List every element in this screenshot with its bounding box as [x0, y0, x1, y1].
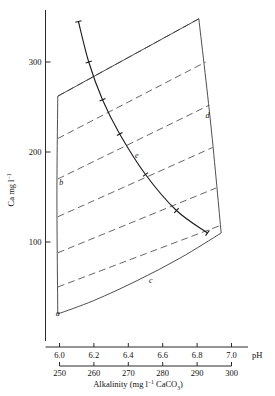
isoline-dashed — [58, 188, 216, 253]
curve-label-a: a — [56, 309, 60, 318]
envelope-curve-c — [58, 233, 221, 314]
x-tick-label-ph: 6.6 — [157, 350, 168, 360]
chart-figure: 100200300 6.06.26.46.66.87.0 25026027028… — [0, 0, 275, 396]
x-tick-label-alkalinity: 300 — [225, 368, 238, 378]
x-tick-label-alkalinity: 270 — [122, 368, 135, 378]
envelope-curve-b — [57, 96, 58, 314]
x-tick-label-ph: 6.2 — [89, 350, 100, 360]
curve-label-c: c — [149, 276, 153, 285]
x-tick-label-alkalinity: 290 — [191, 368, 204, 378]
y-axis-title: Ca mg l−1 — [6, 173, 16, 206]
curve-label-b: b — [59, 178, 63, 187]
y-tick-label: 200 — [29, 147, 42, 157]
x-axis-ph-title: pH — [252, 350, 262, 360]
alkalinity-title-pre: Alkalinity (mg l — [93, 379, 148, 389]
x-tick-label-alkalinity: 280 — [156, 368, 169, 378]
x-tick-label-ph: 6.0 — [54, 350, 65, 360]
curve-e-path — [78, 22, 207, 234]
envelope-group — [57, 19, 221, 314]
ca-ph-alkalinity-nomogram: 100200300 6.06.26.46.66.87.0 25026027028… — [0, 0, 275, 396]
envelope-curve-top — [58, 19, 199, 96]
curve-e-group — [75, 21, 209, 236]
curve-e-tick-marker — [143, 173, 148, 177]
y-axis-title-text: Ca mg l — [6, 179, 16, 207]
isoline-dashed — [58, 62, 206, 139]
curve-e-tick-marker — [75, 21, 81, 23]
x-tick-ph-group: 6.06.26.46.66.87.0 — [54, 343, 237, 360]
x-tick-label-ph: 6.8 — [192, 350, 203, 360]
alkalinity-title-mid: CaCO — [154, 379, 177, 389]
envelope-curve-d — [199, 19, 221, 233]
isoline-dashed — [58, 226, 220, 287]
x-tick-label-ph: 6.4 — [123, 350, 134, 360]
x-axis-alkalinity-title: Alkalinity (mg l−1 CaCO3) — [93, 379, 183, 391]
axis-group — [46, 10, 249, 366]
svg-text:Ca mg l−1: Ca mg l−1 — [6, 173, 16, 206]
curve-e-tick-marker — [117, 132, 123, 135]
x-tick-label-alkalinity: 250 — [53, 368, 66, 378]
y-axis-title-superscript: −1 — [6, 173, 12, 179]
alkalinity-title-post: ) — [180, 379, 183, 389]
isoline-dashed — [58, 105, 209, 179]
y-tick-label: 300 — [29, 57, 42, 67]
y-tick-group: 100200300 — [29, 57, 51, 247]
x-tick-label-alkalinity: 260 — [88, 368, 101, 378]
y-tick-label: 100 — [29, 237, 42, 247]
x-tick-label-ph: 7.0 — [226, 350, 237, 360]
curve-label-e: e — [135, 151, 139, 160]
x-tick-alkalinity-group: 250260270280290300 — [53, 362, 238, 378]
